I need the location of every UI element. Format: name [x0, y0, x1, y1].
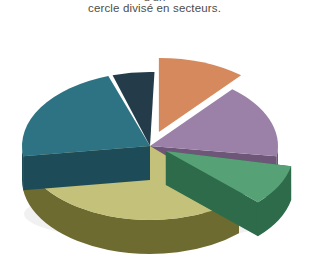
pie-side-walls: [22, 58, 291, 254]
figure-root: d'un cercle divisé en secteurs.: [0, 0, 309, 269]
caption-text: cercle divisé en secteurs.: [0, 1, 309, 15]
pie-chart: [0, 18, 309, 269]
pie-chart-svg: [0, 18, 309, 269]
